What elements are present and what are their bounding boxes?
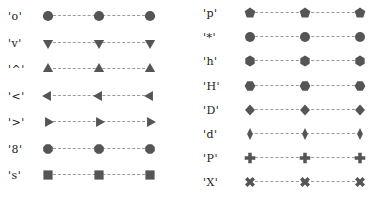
marker-point-circle [142,8,158,24]
marker-point-square [40,167,56,183]
marker-point-plus-filled [352,150,368,166]
marker-point-star [297,29,313,45]
marker-point-thin-diamond [242,126,258,142]
marker-point-triangle-right [142,114,158,130]
marker-point-octagon [91,141,107,157]
marker-label-thin-diamond: 'd' [203,129,218,140]
marker-point-circle [91,8,107,24]
marker-point-triangle-left [91,88,107,104]
marker-point-pentagon [242,5,258,21]
marker-point-triangle-up [91,61,107,77]
marker-point-plus-filled [297,150,313,166]
marker-point-square [142,167,158,183]
marker-point-triangle-down [40,35,56,51]
marker-label-star: '*' [203,32,216,43]
marker-column-left: 'o''v''^''<''>''8''s' [0,0,189,197]
marker-point-thin-diamond [297,126,313,142]
marker-point-circle [40,8,56,24]
marker-point-star [352,29,368,45]
marker-label-hexagon2: 'H' [203,80,220,91]
marker-point-pentagon [297,5,313,21]
marker-point-triangle-down [142,35,158,51]
marker-label-diamond: 'D' [203,104,219,115]
marker-label-triangle-down: 'v' [8,37,22,48]
marker-label-triangle-left: '<' [8,90,25,101]
marker-point-hexagon-pointy [242,53,258,69]
marker-point-square [91,167,107,183]
marker-point-diamond [242,102,258,118]
marker-point-hexagon-flat [242,78,258,94]
marker-point-x-filled [242,174,258,190]
marker-point-octagon [40,141,56,157]
marker-point-octagon [142,141,158,157]
marker-point-triangle-up [40,61,56,77]
marker-point-triangle-right [91,114,107,130]
marker-label-circle: 'o' [8,11,22,22]
marker-point-diamond [352,102,368,118]
marker-label-triangle-right: '>' [8,117,25,128]
marker-label-plus-filled: 'P' [203,153,218,164]
marker-point-diamond [297,102,313,118]
marker-point-hexagon-flat [297,78,313,94]
marker-point-triangle-down [91,35,107,51]
marker-column-right: 'p''*''h''H''D''d''P''X' [195,0,377,197]
marker-point-hexagon-flat [352,78,368,94]
marker-point-pentagon [352,5,368,21]
marker-point-triangle-up [142,61,158,77]
marker-label-square: 's' [8,170,21,181]
marker-point-thin-diamond [352,126,368,142]
marker-point-x-filled [352,174,368,190]
marker-reference-figure: 'o''v''^''<''>''8''s' 'p''*''h''H''D''d'… [0,0,377,197]
marker-label-hexagon1: 'h' [203,56,218,67]
marker-point-plus-filled [242,150,258,166]
marker-point-hexagon-pointy [352,53,368,69]
marker-point-x-filled [297,174,313,190]
marker-point-triangle-left [40,88,56,104]
marker-point-hexagon-pointy [297,53,313,69]
marker-label-octagon: '8' [8,143,23,154]
marker-label-pentagon: 'p' [203,8,218,19]
marker-label-triangle-up: '^' [8,64,25,75]
marker-point-triangle-right [40,114,56,130]
marker-point-star [242,29,258,45]
marker-point-triangle-left [142,88,158,104]
marker-label-x-filled: 'X' [203,177,218,188]
